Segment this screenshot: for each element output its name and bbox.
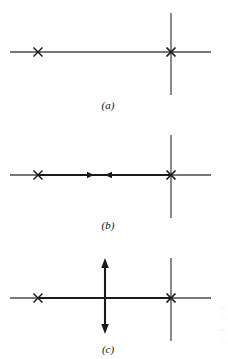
panel-b-arrowhead-left-pointing [105, 172, 112, 178]
panel-c-arrowhead-down [101, 324, 109, 334]
panel-b-group [10, 135, 211, 218]
panel-label-a: (a) [88, 99, 128, 111]
panel-label-b: (b) [88, 219, 128, 231]
panel-c-arrowhead-up [101, 258, 109, 268]
panel-a-group [10, 13, 211, 95]
panel-label-c: (c) [88, 343, 128, 355]
panel-c-vertical-double-arrow [101, 258, 109, 334]
scan-edge-artifact [221, 307, 226, 308]
figure-canvas [0, 0, 228, 359]
panel-b-arrowhead-right-pointing [87, 172, 94, 178]
figure-root: (a) (b) (c) [0, 0, 228, 359]
scan-edge-artifact [222, 342, 226, 343]
scan-edge-artifact [222, 318, 226, 319]
panel-c-group [10, 258, 211, 341]
scan-edge-artifact [221, 330, 226, 331]
